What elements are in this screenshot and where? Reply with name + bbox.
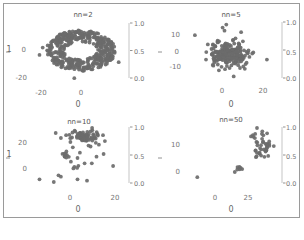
scatter-point <box>98 41 102 45</box>
scatter-point <box>204 58 208 62</box>
scatter-point <box>78 63 82 67</box>
scatter-point <box>110 56 114 60</box>
scatter-point <box>213 44 217 48</box>
scatter-point <box>224 23 228 27</box>
scatter-point <box>71 145 75 149</box>
scatter-point <box>38 177 42 181</box>
scatter-point <box>87 36 91 40</box>
scatter-point <box>98 45 102 49</box>
scatter-point <box>76 156 80 160</box>
scatter-point <box>69 160 73 164</box>
scatter-point <box>93 35 97 39</box>
colorbar-tick-label: 0.5 <box>134 153 144 161</box>
scatter-point <box>76 134 80 138</box>
scatter-point <box>81 40 85 44</box>
y-tick-label: 20 <box>18 139 27 147</box>
scatter-point <box>87 30 91 34</box>
scatter-point <box>212 64 216 68</box>
scatter-point <box>215 50 219 54</box>
scatter-point <box>103 139 107 143</box>
scatter-point <box>111 47 115 51</box>
scatter-point <box>86 137 90 141</box>
scatter-point <box>261 140 265 144</box>
scatter-point <box>90 136 94 140</box>
scatter-point <box>78 32 82 36</box>
scatter-point <box>247 49 251 53</box>
scatter-point <box>224 43 228 47</box>
colorbar-tick-label: 0.5 <box>134 48 144 56</box>
scatter-point <box>64 156 68 160</box>
scatter-point <box>111 164 115 168</box>
scatter-point <box>61 38 65 42</box>
scatter-point <box>216 63 220 67</box>
scatter-point <box>239 30 243 34</box>
scatter-point <box>231 48 235 52</box>
scatter-point <box>59 136 63 140</box>
scatter-point <box>107 52 111 56</box>
colorbar-tick-label: 1.0 <box>134 20 144 28</box>
colorbar-tick-label: 0.0 <box>134 75 144 83</box>
subplot-nn-50: nn=50 10 0 0 25 0 1.0 0.5 0.0 <box>158 116 296 214</box>
x-tick-label: -20 <box>35 89 46 97</box>
scatter-point <box>54 50 58 54</box>
scatter-point <box>58 32 62 36</box>
scatter-point <box>253 136 257 140</box>
y-tick-label: 0 <box>22 46 26 54</box>
scatter-point <box>57 173 61 177</box>
scatter-point <box>102 152 106 156</box>
scatter-point <box>193 33 197 37</box>
scatter-point <box>63 52 67 56</box>
y-tick-label: -20 <box>16 74 27 82</box>
scatter-point <box>70 34 74 38</box>
subplot-title: nn=10 <box>67 118 91 126</box>
scatter-point <box>225 48 229 52</box>
scatter-point <box>260 137 264 141</box>
x-axis-label: 0 <box>75 205 80 214</box>
scatter-point <box>87 132 91 136</box>
scatter-point <box>60 44 64 48</box>
colorbar <box>281 127 283 183</box>
scatter-point <box>267 140 271 144</box>
scatter-point <box>217 68 221 72</box>
scatter-point <box>52 180 56 184</box>
scatter-point <box>56 60 60 64</box>
scatter-point <box>49 48 53 52</box>
scatter-point <box>101 51 105 55</box>
colorbar-tick-label: 0.0 <box>134 180 144 188</box>
scatter-point <box>83 161 87 165</box>
scatter-point <box>217 39 221 43</box>
colorbar-tick-label: 0.5 <box>286 153 296 161</box>
scatter-point <box>76 58 80 62</box>
scatter-point <box>101 133 105 137</box>
y-tick-label: 0 <box>176 168 180 176</box>
scatter-point <box>64 32 68 36</box>
scatter-point <box>90 126 94 130</box>
scatter-point <box>67 66 71 70</box>
colorbar <box>128 127 130 183</box>
scatter-point <box>245 61 249 65</box>
scatter-point <box>220 65 224 69</box>
scatter-point <box>258 146 262 150</box>
scatter-point <box>98 37 102 41</box>
colorbar-tick-label: 1.0 <box>134 124 144 132</box>
y-axis-label: 1 <box>6 45 11 54</box>
scatter-point <box>97 143 101 147</box>
scatter-point <box>224 52 228 56</box>
x-tick-label: 0 <box>220 87 224 95</box>
scatter-point <box>38 53 42 57</box>
scatter-point <box>46 44 50 48</box>
scatter-point <box>255 141 259 145</box>
scatter-point <box>54 131 58 135</box>
scatter-point <box>71 131 75 135</box>
scatter-point <box>239 166 243 170</box>
scatter-point <box>106 59 110 63</box>
x-axis-label: 0 <box>75 100 80 109</box>
colorbar-tick-label: 0.5 <box>286 49 296 57</box>
y-tick-label: -10 <box>170 63 181 71</box>
scatter-point <box>75 37 79 41</box>
subplot-nn-10: nn=10 20 0 0 20 0 1 1.0 0.5 0.0 <box>6 118 144 214</box>
scatter-point <box>243 67 247 71</box>
scatter-point <box>261 133 265 137</box>
scatter-point <box>228 66 232 70</box>
scatter-point <box>87 144 91 148</box>
